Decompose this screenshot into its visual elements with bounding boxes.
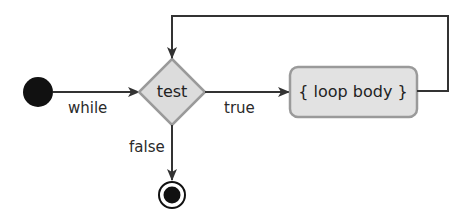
final-node-inner: [164, 187, 181, 204]
edge-label-while: while: [68, 99, 107, 117]
edge-label-false: false: [129, 138, 165, 156]
while-loop-activity-diagram: while test true { loop body } false: [0, 0, 475, 223]
start-node: [23, 77, 53, 107]
edge-label-true: true: [224, 99, 255, 117]
decision-label-test: test: [157, 82, 188, 101]
action-label-loop-body: { loop body }: [298, 82, 407, 101]
